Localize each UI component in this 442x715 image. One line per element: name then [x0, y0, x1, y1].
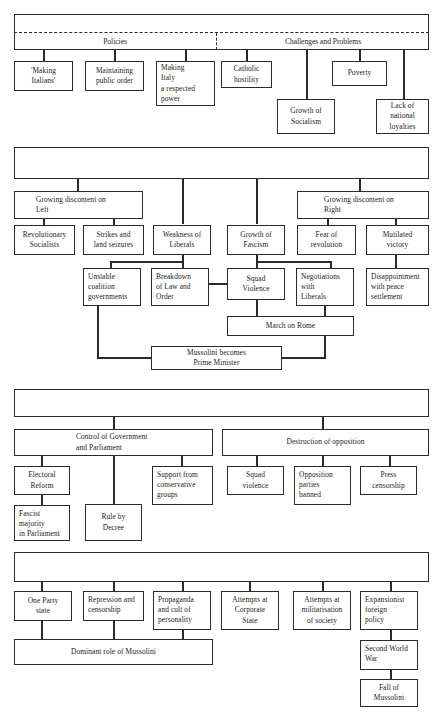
- box-expansionist-foreign-policy: Expansionistforeignpolicy: [360, 591, 418, 630]
- connector-s1-b6: [359, 50, 361, 61]
- connector-unstable-to-mussolini: [97, 357, 152, 359]
- connector-breakdown-to-squad: [208, 283, 228, 285]
- box-mutilated-victory: Mutilatedvictory: [366, 225, 429, 255]
- connector-electoral-to-fascist-majority: [41, 495, 43, 505]
- box-disappointment-peace-settlement: Disappointmentwith peacesettlement: [366, 268, 429, 306]
- connector-s2-left-branch: [77, 179, 79, 191]
- section-2-header-box: [14, 147, 429, 179]
- box-growing-discontent-left-label: Growing discontent onLeft: [19, 195, 138, 215]
- connector-s3-right-branch: [322, 417, 324, 429]
- section-1-branch-challenges-label: Challenges and Problems: [217, 37, 429, 46]
- connector-s4-corporate: [249, 582, 251, 591]
- box-fall-of-mussolini: Fall ofMussolini: [360, 679, 418, 707]
- connector-s1-b5: [306, 50, 308, 99]
- box-control-of-government-label: Control of Governmentand Parliament: [19, 432, 208, 452]
- connector-propaganda-to-dominant: [182, 630, 184, 639]
- box-press-censorship: Presscensorship: [360, 466, 417, 495]
- box-rule-by-decree: Rule byDecree: [85, 504, 142, 541]
- connector-s4-repression: [113, 582, 115, 591]
- connector-s2-right-branch: [359, 179, 361, 191]
- box-weakness-of-liberals: Weakness ofLiberals: [153, 225, 211, 255]
- box-breakdown-law-and-order: Breakdownof Law andOrder: [151, 268, 209, 306]
- section-1-branch-policies-label: Policies: [14, 37, 216, 46]
- connector-s2-weakness: [182, 179, 184, 224]
- box-fascist-majority-in-parliament: Fascistmajorityin Parliament: [14, 505, 70, 541]
- box-unstable-coalition-governments: Unstablecoalitiongovernments: [83, 268, 141, 306]
- box-making-italy-respected-power: MakingItalya respectedpower: [156, 61, 215, 106]
- connector-s2-bracket-right: [256, 261, 332, 263]
- box-dominant-role-of-mussolini: Dominant role of Mussolini: [14, 639, 213, 665]
- connector-s3-electoral: [41, 456, 43, 466]
- box-poverty: Poverty: [332, 61, 387, 86]
- connector-s1-b1: [43, 50, 45, 61]
- connector-s3-squad: [256, 456, 258, 466]
- box-growth-of-fascism: Growth ofFascism: [227, 225, 285, 255]
- box-fear-of-revolution: Fear ofrevolution: [297, 225, 356, 255]
- box-catholic-hostility: Catholichostility: [221, 61, 272, 88]
- box-growing-discontent-right-label: Growing discontent onRight: [302, 195, 424, 215]
- box-opposition-parties-banned: Oppositionpartiesbanned: [294, 466, 351, 505]
- connector-unstable-down: [97, 306, 99, 359]
- connector-s3-left-branch: [113, 417, 115, 429]
- connector-s1-b4: [246, 50, 248, 61]
- box-support-from-conservative-groups: Support fromconservativegroups: [152, 466, 213, 505]
- connector-s4-expansionist: [390, 582, 392, 591]
- box-destruction-of-opposition: Destruction of opposition: [222, 429, 429, 456]
- connector-ww2-to-fall: [390, 670, 392, 679]
- box-one-party-state: One Partystate: [14, 591, 72, 621]
- connector-s2-growth-fascism: [256, 179, 258, 224]
- box-march-on-rome: March on Rome: [227, 316, 354, 336]
- box-second-world-war: Second WorldWar: [360, 640, 418, 670]
- connector-s2-to-squad: [256, 261, 258, 268]
- box-maintaining-public-order: Maintainingpublic order: [85, 61, 144, 91]
- box-squad-violence: SquadViolence: [227, 268, 285, 300]
- section-1-header-divider: [14, 32, 429, 33]
- section-4-header-box: [14, 552, 429, 582]
- section-3-header-box: [14, 389, 429, 417]
- diagram-canvas: 1870 – Liberal Regime – 1915 Policies Ch…: [0, 0, 442, 715]
- box-attempts-militarisation: Attempts atmilitarisationof society: [293, 591, 351, 630]
- connector-repression-to-dominant: [113, 621, 115, 639]
- box-squad-violence-s3: Squadviolence: [227, 466, 284, 495]
- connector-s3-support: [181, 456, 183, 466]
- connector-s1-b2: [114, 50, 116, 61]
- connector-s2-bracket-left: [110, 261, 184, 263]
- connector-expansionist-to-ww2: [390, 630, 392, 640]
- box-growing-discontent-right: Growing discontent onRight: [297, 191, 429, 219]
- box-lack-of-national-loyalties: Lack ofnationalloyalties: [376, 99, 429, 134]
- connector-s2-to-negotiations: [330, 261, 332, 268]
- connector-squad-to-march: [256, 300, 258, 316]
- box-growth-of-socialism: Growth ofSocialism: [277, 99, 335, 134]
- connector-one-party-to-dominant: [41, 621, 43, 639]
- connector-s4-propaganda: [182, 582, 184, 591]
- connector-negotiations-to-march: [324, 306, 326, 316]
- box-electoral-reform: ElectoralReform: [14, 466, 70, 495]
- connector-s1-b7: [403, 50, 405, 99]
- box-repression-and-censorship: Repression andcensorship: [83, 591, 144, 621]
- connector-s4-militarisation: [322, 582, 324, 591]
- box-strikes-and-land-seizures: Strikes andland seizures: [83, 225, 144, 255]
- box-revolutionary-socialists: RevolutionarySocialists: [14, 225, 75, 255]
- box-control-of-government: Control of Governmentand Parliament: [14, 429, 213, 456]
- connector-s3-press: [389, 456, 391, 466]
- connector-s1-b3: [185, 50, 187, 61]
- connector-s2-to-breakdown: [182, 261, 184, 268]
- box-growing-discontent-left: Growing discontent onLeft: [14, 191, 143, 219]
- connector-s2-to-unstable: [110, 261, 112, 268]
- connector-s4-one-party: [41, 582, 43, 591]
- connector-s2-to-disappointment: [395, 255, 397, 268]
- connector-march-right-down: [324, 336, 326, 359]
- connector-s3-rule-by-decree: [113, 456, 115, 504]
- box-attempts-corporate-state: Attempts atCorporateState: [221, 591, 279, 630]
- box-negotiations-with-liberals: NegotiationswithLiberals: [296, 268, 354, 306]
- box-making-italians: 'MakingItalians': [14, 61, 73, 91]
- connector-march-to-mussolini: [282, 357, 326, 359]
- connector-s3-opposition-parties: [322, 456, 324, 466]
- box-mussolini-becomes-pm: Mussolini becomesPrime Minister: [151, 346, 282, 370]
- box-propaganda-cult-of-personality: Propagandaand cult ofpersonality: [153, 591, 211, 630]
